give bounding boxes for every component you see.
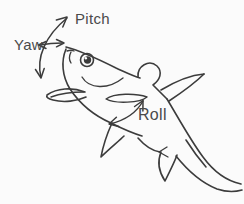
tail-bottom-curve — [176, 156, 242, 191]
pectoral-fin-fold-line — [51, 92, 84, 97]
pectoral-fin-outline — [47, 89, 86, 102]
diagram-canvas: Pitch Yaw Roll — [0, 0, 244, 204]
fish-axes-diagram: Pitch Yaw Roll — [0, 0, 244, 204]
fish-side-fin-marking — [106, 94, 147, 102]
pitch-label: Pitch — [75, 10, 110, 27]
dorsal-fin — [161, 74, 204, 101]
anal-fin-front-edge — [138, 138, 160, 152]
tail-mid-line — [186, 140, 206, 167]
tail — [167, 99, 242, 191]
fish-gill-line — [82, 77, 123, 87]
fish-back-hump — [138, 63, 167, 99]
fish-eye-highlight — [85, 57, 87, 59]
dorsal-fin-top-edge — [161, 74, 204, 90]
yaw-label: Yaw — [14, 36, 43, 53]
roll-label: Roll — [138, 106, 167, 123]
tail-upper-line — [167, 99, 241, 184]
fish-back-outline — [66, 47, 140, 78]
fish-mouth-mark — [67, 50, 74, 63]
anal-fin — [138, 138, 177, 181]
pectoral-fin — [47, 89, 86, 102]
